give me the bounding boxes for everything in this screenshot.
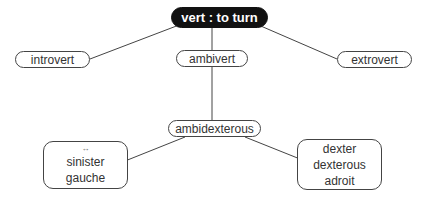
node-extrovert: extrovert [337, 51, 412, 68]
dexterous-label: dexterous [313, 157, 366, 173]
introvert-label: introvert [31, 53, 74, 67]
root-label: vert : to turn [181, 10, 258, 25]
dexter-label: dexter [323, 141, 356, 157]
extrovert-label: extrovert [351, 53, 398, 67]
left-right-arrow-icon: ↔ [82, 144, 90, 154]
node-introvert: introvert [15, 51, 90, 68]
node-dexter-group: dexter dexterous adroit [297, 139, 382, 190]
gauche-label: gauche [66, 170, 105, 186]
node-ambivert: ambivert [176, 50, 248, 67]
ambidexterous-label: ambidexterous [175, 122, 254, 136]
adroit-label: adroit [324, 173, 354, 189]
node-sinister-gauche: ↔ sinister gauche [43, 141, 128, 189]
node-ambidexterous: ambidexterous [168, 120, 261, 137]
root-node: vert : to turn [171, 7, 268, 28]
ambivert-label: ambivert [189, 52, 235, 66]
sinister-label: sinister [66, 154, 104, 170]
